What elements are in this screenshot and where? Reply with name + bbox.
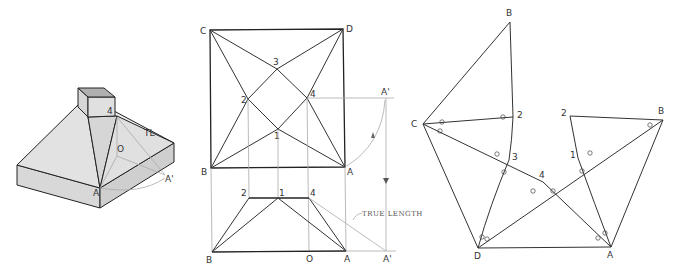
pictorial-view: A 4 O A' TL <box>17 88 174 208</box>
plan-label-2: 2 <box>241 95 247 105</box>
pattern-label-4: 4 <box>539 170 545 180</box>
pattern-curve-1-a <box>578 158 611 247</box>
elevation-view: TRUE LENGTH 2 1 4 B O A A' <box>206 188 423 265</box>
elev-label-4: 4 <box>310 188 316 198</box>
pattern-line-4-a <box>543 182 611 247</box>
projection-lines <box>211 98 389 252</box>
plan-view: C D B A 3 2 4 1 A' <box>200 24 394 177</box>
pattern-edge-c-d <box>423 124 478 248</box>
label-a: A <box>93 188 100 198</box>
plan-line-c-2 <box>210 30 248 99</box>
plan-label-4: 4 <box>310 89 316 99</box>
pattern-label-b-right: B <box>658 106 664 116</box>
label-tl: TL <box>143 128 155 138</box>
elev-label-o: O <box>306 254 313 264</box>
pattern-label-d: D <box>474 251 481 261</box>
plan-label-a: A <box>347 167 354 177</box>
pattern-edge-2-b <box>570 116 663 120</box>
plan-inner-square <box>248 69 307 129</box>
pattern-label-3: 3 <box>512 152 518 162</box>
elev-label-2: 2 <box>241 188 247 198</box>
label-o: O <box>117 144 124 154</box>
elev-line-1-a <box>278 198 346 251</box>
pattern-label-c: C <box>411 119 417 129</box>
down-arrow-icon <box>383 178 389 184</box>
plan-label-a-prime: A' <box>381 87 390 97</box>
plan-label-b: B <box>201 167 207 177</box>
plan-label-1: 1 <box>274 131 280 141</box>
elev-base-line <box>212 251 346 252</box>
pattern-label-a: A <box>607 250 614 260</box>
elev-label-a-prime: A' <box>383 254 392 264</box>
elev-label-a: A <box>344 254 351 264</box>
pattern-label-2-right: 2 <box>561 108 567 118</box>
pattern-label-1: 1 <box>570 150 576 160</box>
pattern-development: B C 2 3 4 D A 2 B 1 <box>411 8 664 261</box>
arc-arrow-icon <box>371 132 375 138</box>
true-length-annotation: TRUE LENGTH <box>362 210 423 218</box>
elev-line-b-1 <box>212 198 278 252</box>
drawing-canvas: A 4 O A' TL C D B A 3 2 4 1 A' <box>0 0 680 273</box>
pattern-line-d-b <box>478 120 663 248</box>
pattern-edge-b-a <box>611 120 663 247</box>
label-4: 4 <box>107 106 113 116</box>
pattern-edge-d-a <box>478 247 611 248</box>
elev-label-1: 1 <box>279 188 285 198</box>
pattern-label-b-top: B <box>506 8 512 18</box>
plan-label-d: D <box>346 24 353 34</box>
leader-line <box>353 213 362 220</box>
label-a-prime: A' <box>165 174 174 184</box>
pattern-edge-b-2 <box>510 22 513 117</box>
tick-marks <box>438 115 652 241</box>
pattern-label-2-left: 2 <box>517 110 523 120</box>
elev-line-4-a <box>309 198 346 251</box>
pattern-line-c-2 <box>423 117 513 124</box>
pattern-edge-c-b <box>423 22 510 124</box>
elev-true-length-line <box>309 198 386 251</box>
plan-outline <box>210 29 345 168</box>
plan-label-c: C <box>200 26 206 36</box>
plan-line-c-3 <box>210 30 277 69</box>
elev-line-b-2 <box>212 198 249 252</box>
elev-label-b: B <box>206 255 212 265</box>
plan-swing-arc <box>345 100 385 167</box>
plan-label-3: 3 <box>273 57 279 67</box>
